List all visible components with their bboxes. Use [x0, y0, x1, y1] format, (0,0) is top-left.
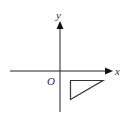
x-axis-label: x — [114, 65, 120, 77]
coordinate-diagram: x y O — [0, 0, 123, 116]
right-triangle — [71, 81, 104, 100]
x-axis-arrow-icon — [105, 68, 113, 75]
y-axis-label: y — [55, 9, 61, 21]
y-axis-arrow-icon — [57, 21, 64, 29]
origin-label: O — [47, 75, 55, 87]
